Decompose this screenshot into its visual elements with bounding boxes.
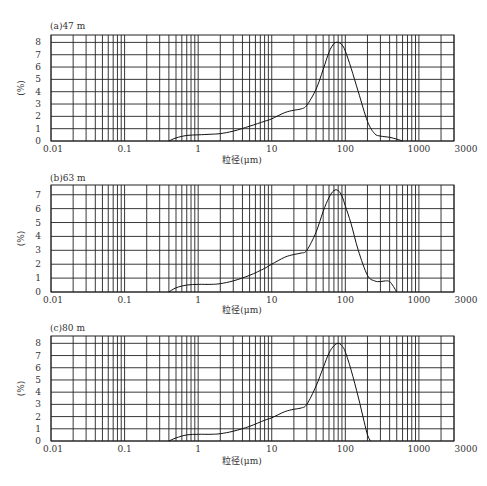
x-axis-label: 粒径(μm) — [222, 455, 261, 466]
y-tick-label: 1 — [35, 124, 41, 134]
x-tick-label: 10 — [266, 144, 278, 154]
x-tick-label: 0.1 — [117, 444, 131, 454]
y-tick-label: 8 — [35, 37, 41, 47]
horizontal-gridlines — [51, 42, 454, 141]
horizontal-gridlines — [51, 195, 454, 292]
y-axis-label: (%) — [16, 80, 26, 96]
chart-panel-b: 012345670.010.111010010003000(%)粒径(μm)(b… — [16, 173, 478, 315]
horizontal-gridlines — [51, 343, 454, 441]
particle-size-distribution-figure: 0123456780.010.111010010003000(%)粒径(μm)(… — [0, 0, 487, 486]
y-axis-label: (%) — [16, 381, 26, 397]
x-tick-label: 10 — [266, 444, 278, 454]
x-tick-label: 0.1 — [117, 144, 131, 154]
y-tick-label: 0 — [35, 436, 41, 446]
y-tick-label: 7 — [35, 190, 41, 200]
panel-title: (a)47 m — [50, 21, 86, 31]
y-tick-label: 4 — [35, 231, 41, 241]
distribution-curve — [169, 190, 397, 292]
x-tick-label: 1000 — [407, 295, 430, 305]
x-tick-label: 3000 — [455, 144, 478, 154]
x-tick-label: 1 — [195, 444, 201, 454]
y-tick-label: 2 — [35, 412, 41, 422]
x-tick-label: 100 — [337, 295, 354, 305]
y-tick-label: 2 — [35, 259, 41, 269]
y-tick-label: 2 — [35, 111, 41, 121]
x-tick-label: 1 — [195, 295, 201, 305]
x-tick-label: 100 — [337, 444, 354, 454]
y-tick-label: 1 — [35, 424, 41, 434]
chart-panel-a: 0123456780.010.111010010003000(%)粒径(μm)(… — [16, 21, 478, 165]
y-tick-label: 5 — [35, 218, 41, 228]
y-tick-label: 3 — [35, 399, 41, 409]
x-tick-label: 1000 — [407, 444, 430, 454]
y-tick-label: 7 — [35, 50, 41, 60]
y-tick-label: 0 — [35, 287, 41, 297]
y-tick-label: 6 — [35, 62, 41, 72]
y-tick-label: 4 — [35, 387, 41, 397]
y-tick-label: 6 — [35, 363, 41, 373]
x-tick-label: 1000 — [407, 144, 430, 154]
y-axis-label: (%) — [16, 231, 26, 247]
y-tick-label: 7 — [35, 351, 41, 361]
chart-panel-c: 0123456780.010.111010010003000(%)粒径(μm)(… — [16, 323, 478, 466]
x-tick-label: 0.01 — [43, 144, 63, 154]
y-tick-label: 1 — [35, 273, 41, 283]
y-tick-label: 3 — [35, 99, 41, 109]
x-tick-label: 10 — [266, 295, 278, 305]
x-tick-label: 3000 — [455, 295, 478, 305]
x-tick-label: 0.01 — [43, 444, 63, 454]
y-tick-label: 0 — [35, 136, 41, 146]
y-tick-label: 6 — [35, 204, 41, 214]
y-tick-label: 5 — [35, 74, 41, 84]
y-tick-label: 8 — [35, 338, 41, 348]
panel-title: (b)63 m — [50, 173, 86, 183]
x-tick-label: 100 — [337, 144, 354, 154]
y-tick-label: 5 — [35, 375, 41, 385]
panel-title: (c)80 m — [50, 323, 85, 333]
x-axis-label: 粒径(μm) — [222, 304, 261, 315]
x-axis-label: 粒径(μm) — [222, 154, 261, 165]
y-tick-label: 4 — [35, 87, 41, 97]
vertical-gridlines — [51, 185, 454, 292]
y-tick-label: 3 — [35, 245, 41, 255]
plot-frame — [51, 185, 454, 292]
x-tick-label: 0.01 — [43, 295, 63, 305]
x-tick-label: 1 — [195, 144, 201, 154]
x-tick-label: 3000 — [455, 444, 478, 454]
x-tick-label: 0.1 — [117, 295, 131, 305]
